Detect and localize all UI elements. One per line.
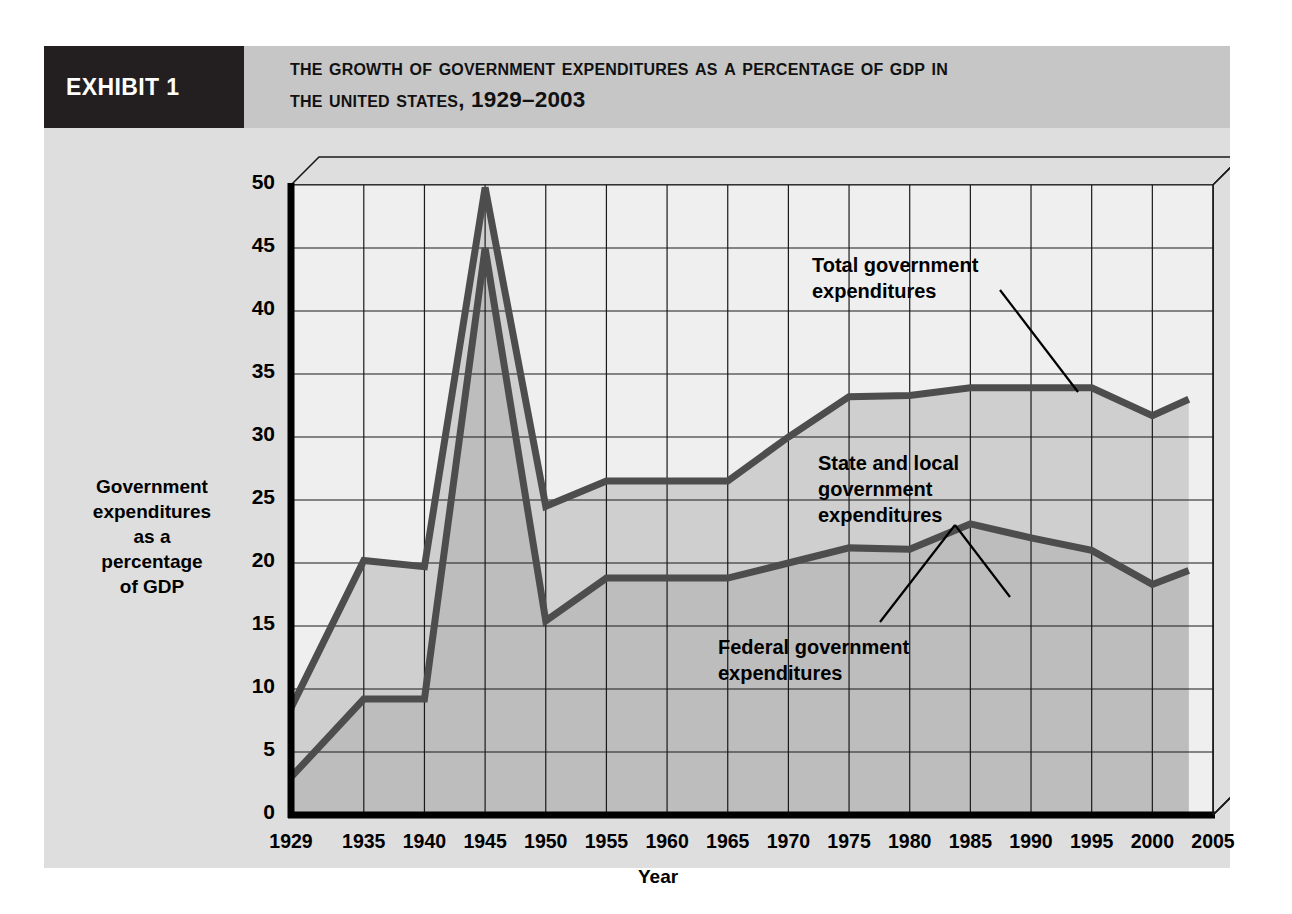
x-tick-label: 1980 — [878, 830, 942, 853]
y-tick-label: 50 — [229, 170, 275, 194]
annotation-federal-government-expenditures: Federal government expenditures — [718, 634, 909, 686]
x-tick-label: 1935 — [332, 830, 396, 853]
annotation-state-line-2: expenditures — [818, 502, 959, 528]
x-tick-label: 1965 — [696, 830, 760, 853]
y-axis-title-line-4: of GDP — [62, 574, 242, 599]
y-axis-title-line-2: as a — [62, 524, 242, 549]
annotation-total-line-0: Total government — [812, 252, 978, 278]
exhibit-title: The Growth of Government Expenditures as… — [290, 52, 1220, 116]
x-tick-label: 1929 — [259, 830, 323, 853]
y-tick-label: 0 — [229, 800, 275, 824]
exhibit-title-line-2: the United States, 1929–2003 — [290, 84, 1220, 116]
y-tick-label: 45 — [229, 233, 275, 257]
exhibit-figure: EXHIBIT 1 The Growth of Government Expen… — [0, 0, 1292, 914]
x-tick-label: 1970 — [756, 830, 820, 853]
exhibit-tag: EXHIBIT 1 — [44, 46, 244, 128]
x-tick-label: 1990 — [999, 830, 1063, 853]
y-tick-label: 5 — [229, 737, 275, 761]
x-tick-label: 1995 — [1060, 830, 1124, 853]
x-tick-label: 1985 — [938, 830, 1002, 853]
x-tick-label: 1975 — [817, 830, 881, 853]
y-tick-label: 40 — [229, 296, 275, 320]
annotation-state-line-1: government — [818, 476, 959, 502]
y-axis-title-line-0: Government — [62, 474, 242, 499]
x-tick-label: 2005 — [1181, 830, 1245, 853]
y-axis-title-line-3: percentage — [62, 549, 242, 574]
x-tick-label: 1950 — [514, 830, 578, 853]
annotation-federal-line-0: Federal government — [718, 634, 909, 660]
x-tick-label: 1955 — [574, 830, 638, 853]
y-tick-label: 35 — [229, 359, 275, 383]
annotation-total-government-expenditures: Total government expenditures — [812, 252, 978, 304]
x-tick-label: 1940 — [392, 830, 456, 853]
x-tick-label: 1945 — [453, 830, 517, 853]
annotation-state-and-local-government-expenditures: State and local government expenditures — [818, 450, 959, 528]
y-tick-label: 30 — [229, 422, 275, 446]
annotation-total-line-1: expenditures — [812, 278, 978, 304]
y-axis-title: Government expenditures as a percentage … — [62, 474, 242, 599]
exhibit-title-line-1: The Growth of Government Expenditures as… — [290, 52, 1220, 84]
y-axis-title-line-1: expenditures — [62, 499, 242, 524]
x-axis-title: Year — [638, 866, 678, 888]
y-tick-label: 10 — [229, 674, 275, 698]
y-tick-label: 15 — [229, 611, 275, 635]
x-tick-label: 2000 — [1120, 830, 1184, 853]
y-tick-label: 25 — [229, 485, 275, 509]
x-tick-label: 1960 — [635, 830, 699, 853]
annotation-federal-line-1: expenditures — [718, 660, 909, 686]
y-tick-label: 20 — [229, 548, 275, 572]
annotation-state-line-0: State and local — [818, 450, 959, 476]
